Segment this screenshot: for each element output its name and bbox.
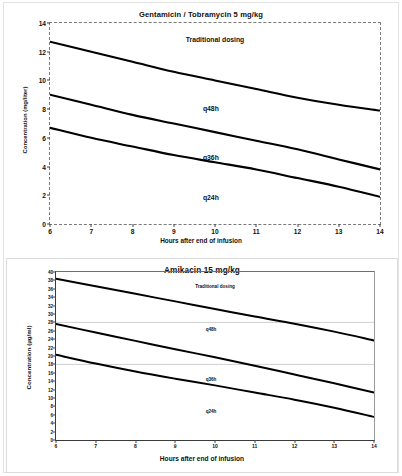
x-axis-label-amikacin: Hours after end of infusion [7,455,397,462]
y-tick-label: 2 [50,429,56,434]
y-tick-label: 26 [48,328,56,333]
curve-label-q48h: q48h [206,327,217,332]
x-tick-label: 7 [94,440,97,449]
chart-title-gentamicin: Gentamicin / Tobramycin 5 mg/kg [6,10,396,19]
x-axis-label-gentamicin: Hours after end of infusion [6,237,396,244]
x-tick-label: 11 [252,440,257,449]
y-tick-label: 38 [48,278,56,283]
x-tick-label: 10 [211,224,218,235]
curve-traditional-dosing [50,42,380,111]
y-axis-label-amikacin: Concentration (µg/ml) [25,303,32,413]
x-tick-label: 8 [131,224,135,235]
y-tick-label: 6 [50,412,56,417]
chart-panel-gentamicin: Gentamicin / Tobramycin 5 mg/kg 02468101… [6,5,396,248]
curve-label-q36h: q36h [206,376,217,381]
y-tick-label: 2 [42,192,50,199]
y-tick-label: 40 [48,270,56,275]
curve-label-q48h: q48h [203,104,219,111]
y-tick-label: 16 [48,370,56,375]
curve-q36h [50,128,380,197]
y-tick-label: 20 [48,354,56,359]
y-tick-label: 22 [48,345,56,350]
x-tick-label: 7 [89,224,93,235]
x-tick-label: 8 [134,440,137,449]
y-tick-label: 28 [48,320,56,325]
x-tick-label: 13 [331,440,337,449]
figure-page: Gentamicin / Tobramycin 5 mg/kg 02468101… [0,0,402,476]
x-tick-label: 14 [376,224,383,235]
x-tick-label: 12 [292,440,298,449]
curve-label-traditional-dosing: Traditional dosing [186,35,245,42]
curve-label-q24h: q24h [206,409,217,414]
y-tick-label: 4 [50,421,56,426]
curve-label-q36h: q36h [203,153,219,160]
y-tick-label: 10 [39,77,50,84]
curves-amikacin [56,272,374,440]
y-tick-label: 14 [39,20,50,27]
y-tick-label: 10 [48,396,56,401]
y-axis-label-gentamicin: Concentration (mg/liter) [22,65,28,175]
y-tick-label: 36 [48,286,56,291]
y-tick-label: 8 [50,404,56,409]
y-tick-label: 14 [48,379,56,384]
x-tick-label: 6 [55,440,58,449]
x-tick-label: 11 [253,224,260,235]
x-tick-label: 13 [335,224,342,235]
y-tick-label: 24 [48,337,56,342]
plot-area-amikacin: 0246810121416182022242628303234363840678… [55,271,375,441]
y-tick-label: 30 [48,312,56,317]
x-tick-label: 10 [212,440,218,449]
y-tick-label: 34 [48,295,56,300]
y-tick-label: 4 [42,163,50,170]
plot-area-gentamicin: 0246810121467891011121314 Traditional do… [49,22,381,225]
y-tick-label: 12 [39,48,50,55]
chart-panel-amikacin: Amikacin 15 mg/kg 0246810121416182022242… [6,258,398,473]
curve-label-traditional-dosing: Traditional dosing [195,284,235,289]
y-tick-label: 18 [48,362,56,367]
curve-q48h [56,324,374,392]
x-tick-label: 14 [371,440,377,449]
y-tick-label: 32 [48,303,56,308]
x-tick-label: 6 [48,224,52,235]
x-tick-label: 9 [172,224,176,235]
y-tick-label: 12 [48,387,56,392]
y-tick-label: 6 [42,134,50,141]
x-tick-label: 9 [174,440,177,449]
y-tick-label: 8 [42,106,50,113]
curve-label-q24h: q24h [203,193,219,200]
x-tick-label: 12 [294,224,301,235]
